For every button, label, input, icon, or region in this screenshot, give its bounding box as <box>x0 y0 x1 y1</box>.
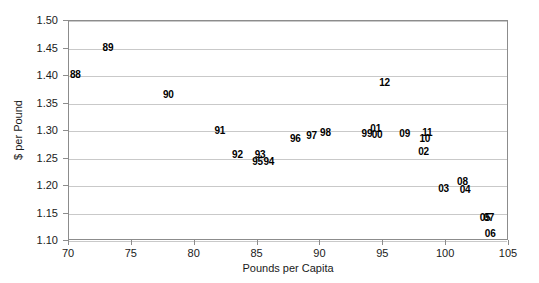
y-axis-tick <box>63 103 68 104</box>
gridline <box>69 21 507 22</box>
x-axis-tick-label: 95 <box>376 247 388 259</box>
y-axis-title: $ per Pound <box>12 100 24 160</box>
data-point-label: 89 <box>103 42 114 53</box>
plot-area: 8889909192939594969798990100091110021203… <box>68 20 508 240</box>
y-axis-tick <box>63 158 68 159</box>
data-point-label: 07 <box>484 212 495 223</box>
x-axis-tick <box>257 240 258 245</box>
data-point-label: 02 <box>418 146 429 157</box>
y-axis-tick <box>63 185 68 186</box>
y-axis-tick <box>63 75 68 76</box>
data-point-label: 10 <box>419 132 430 143</box>
data-point-label: 03 <box>438 183 449 194</box>
gridline <box>69 214 507 215</box>
data-point-label: 88 <box>70 68 81 79</box>
y-axis-tick <box>63 213 68 214</box>
y-axis-tick-label: 1.10 <box>37 234 58 246</box>
y-axis-tick-label: 1.50 <box>37 14 58 26</box>
y-axis-tick-label: 1.20 <box>37 179 58 191</box>
y-axis-tick-label: 1.35 <box>37 97 58 109</box>
data-point-label: 91 <box>214 125 225 136</box>
x-axis-tick-label: 90 <box>313 247 325 259</box>
y-axis-tick-label: 1.30 <box>37 124 58 136</box>
x-axis-tick-label: 80 <box>188 247 200 259</box>
data-point-label: 98 <box>320 126 331 137</box>
x-axis-tick <box>68 240 69 245</box>
y-axis-tick-label: 1.15 <box>37 207 58 219</box>
data-point-label: 09 <box>399 127 410 138</box>
x-axis-tick-label: 70 <box>62 247 74 259</box>
data-point-label: 96 <box>290 133 301 144</box>
y-axis-tick-label: 1.45 <box>37 42 58 54</box>
gridline <box>69 131 507 132</box>
x-axis-tick-label: 100 <box>436 247 454 259</box>
data-point-label: 12 <box>379 76 390 87</box>
x-axis-title: Pounds per Capita <box>68 262 508 274</box>
y-axis-tick-label: 1.40 <box>37 69 58 81</box>
x-axis-tick-label: 75 <box>125 247 137 259</box>
data-point-label: 06 <box>485 227 496 238</box>
x-axis-tick-label: 105 <box>499 247 517 259</box>
x-axis-tick <box>131 240 132 245</box>
y-axis-tick-label: 1.25 <box>37 152 58 164</box>
data-point-label: 97 <box>306 129 317 140</box>
gridline <box>69 159 507 160</box>
y-axis-tick <box>63 240 68 241</box>
data-point-label: 00 <box>372 129 383 140</box>
scatter-chart: 8889909192939594969798990100091110021203… <box>0 0 539 283</box>
gridline <box>69 76 507 77</box>
x-axis-tick <box>445 240 446 245</box>
gridline <box>69 104 507 105</box>
gridline <box>69 241 507 242</box>
x-axis-tick <box>319 240 320 245</box>
y-axis-tick <box>63 48 68 49</box>
x-axis-tick <box>508 240 509 245</box>
data-point-label: 94 <box>264 156 275 167</box>
data-point-label: 95 <box>252 156 263 167</box>
x-axis-tick <box>194 240 195 245</box>
x-axis-tick-label: 85 <box>250 247 262 259</box>
y-axis-tick <box>63 130 68 131</box>
data-point-label: 04 <box>460 183 471 194</box>
data-point-label: 92 <box>232 149 243 160</box>
x-axis-tick <box>382 240 383 245</box>
y-axis-tick <box>63 20 68 21</box>
gridline <box>69 49 507 50</box>
data-point-label: 90 <box>163 88 174 99</box>
